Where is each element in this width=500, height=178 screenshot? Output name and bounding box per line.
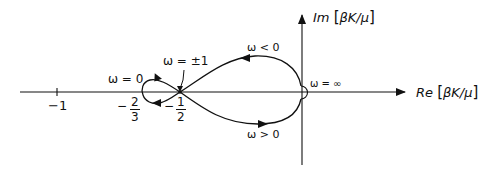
fraction-numerator: 2 (130, 96, 140, 110)
annotation-omega-inf: ω = ∞ (310, 79, 341, 89)
bracket-close: ] (369, 8, 375, 26)
minus-sign-one-half: − (164, 99, 174, 113)
real-axis-unit: βK/μ (443, 85, 472, 100)
annotation-omega-pos: ω > 0 (247, 129, 279, 140)
real-axis-label: Re [βK/μ] (416, 85, 478, 100)
minus-sign-two-thirds: − (117, 99, 127, 113)
bracket-close: ] (473, 83, 479, 101)
imag-axis-label-text: Im (313, 10, 330, 25)
arrow-lobe-upper (240, 54, 250, 62)
annotation-omega-neg: ω < 0 (247, 42, 279, 53)
tick-label-minus-two-thirds: 2 3 (130, 96, 140, 123)
imag-axis-label: Im [βK/μ] (313, 10, 375, 25)
lobe-lower-curve (180, 92, 301, 124)
fraction-denominator: 2 (177, 110, 185, 123)
tick-label-minus-one: −1 (48, 99, 67, 112)
real-axis-label-text: Re (416, 85, 433, 100)
arrow-small-loop-lower (152, 99, 161, 107)
tick-label-minus-one-half: 1 2 (176, 96, 186, 123)
annotation-omega-pm1: ω = ±1 (163, 55, 208, 67)
crossing-point (178, 90, 182, 94)
fraction-denominator: 3 (131, 110, 139, 123)
imag-axis-unit: βK/μ (340, 10, 369, 25)
fraction-numerator: 1 (176, 96, 186, 110)
annotation-omega-zero: ω = 0 (108, 73, 143, 85)
arrow-lobe-lower (258, 120, 268, 128)
